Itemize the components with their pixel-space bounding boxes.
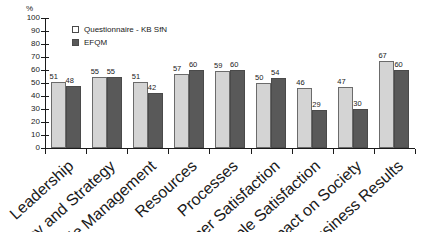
legend-label: EFQM [84,38,107,47]
bar [215,71,230,148]
legend-item: EFQM [72,37,167,48]
bar [92,77,107,149]
legend-label: Questionnaire - KB SfN [84,25,167,34]
chart-legend: Questionnaire - KB SfNEFQM [72,24,167,50]
bar [189,70,204,148]
x-axis-tick [168,149,169,154]
bar [353,109,368,148]
x-axis-tick [415,149,416,154]
bar-group: 5054 [256,18,286,148]
bar-value-label: 50 [255,74,263,82]
y-axis-tick-label: 70 [18,53,40,61]
bar [66,86,81,148]
bar-group: 4730 [338,18,368,148]
bar-group: 4629 [297,18,327,148]
x-axis-tick [209,149,210,154]
bar-value-label: 55 [107,68,115,76]
bar-value-label: 51 [132,73,140,81]
x-axis-tick [333,149,334,154]
bar-chart: % 0102030405060708090100 514855555142576… [0,0,432,232]
bar-value-label: 51 [50,73,58,81]
bar-value-label: 46 [296,79,304,87]
bar [312,110,327,148]
bar [338,87,353,148]
bar [297,88,312,148]
y-axis-tick-label: 30 [18,105,40,113]
x-axis-tick [127,149,128,154]
bar [230,70,245,148]
bar [107,77,122,149]
bar [174,74,189,148]
bar-group: 5960 [215,18,245,148]
x-axis-tick [292,149,293,154]
y-axis-tick-label: 60 [18,66,40,74]
bar-value-label: 42 [148,84,156,92]
legend-swatch-icon [72,39,79,46]
bar-value-label: 54 [271,69,279,77]
y-axis-unit-label: % [26,4,33,13]
bar-value-label: 47 [337,78,345,86]
bar-group: 6760 [379,18,409,148]
bar [51,82,66,148]
bar-value-label: 55 [91,68,99,76]
bar [379,61,394,148]
y-axis-tick-label: 20 [18,118,40,126]
y-axis-tick-label: 0 [18,144,40,152]
bar-value-label: 48 [66,77,74,85]
bar [148,93,163,148]
bar-value-label: 57 [173,65,181,73]
legend-swatch-icon [72,26,79,33]
bar [394,70,409,148]
x-axis-tick [86,149,87,154]
y-axis-tick-label: 100 [18,14,40,22]
bar [256,83,271,148]
bar-value-label: 30 [353,100,361,108]
legend-item: Questionnaire - KB SfN [72,24,167,35]
bar-value-label: 59 [214,62,222,70]
y-axis-tick-label: 50 [18,79,40,87]
bar-group: 5760 [174,18,204,148]
x-axis-line [45,148,415,149]
bar-value-label: 60 [394,61,402,69]
y-axis-tick-label: 40 [18,92,40,100]
y-axis-tick-label: 80 [18,40,40,48]
bar [271,78,286,148]
x-axis-tick [374,149,375,154]
bar-value-label: 29 [312,101,320,109]
x-axis-tick [45,149,46,154]
bar-value-label: 67 [378,52,386,60]
bar [133,82,148,148]
y-axis-tick-label: 90 [18,27,40,35]
y-axis-tick-label: 10 [18,131,40,139]
x-axis-tick [251,149,252,154]
bar-value-label: 60 [230,61,238,69]
bar-value-label: 60 [189,61,197,69]
